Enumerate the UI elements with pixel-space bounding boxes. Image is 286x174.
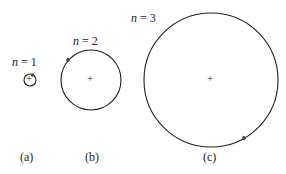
- electron-n2: [66, 58, 70, 62]
- nucleus-b: +: [87, 72, 93, 84]
- bohr-orbits-diagram: [0, 0, 286, 174]
- nucleus-c: +: [207, 72, 213, 84]
- caption-a: (a): [20, 150, 33, 165]
- nucleus-a: +: [26, 72, 32, 84]
- label-n2: n = 2: [73, 34, 98, 49]
- caption-c: (c): [203, 150, 216, 165]
- label-n1: n = 1: [12, 55, 37, 70]
- caption-b: (b): [85, 150, 99, 165]
- label-n3: n = 3: [131, 11, 156, 26]
- electron-n3: [242, 136, 246, 140]
